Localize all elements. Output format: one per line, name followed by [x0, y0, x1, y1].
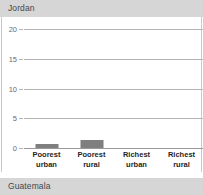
chart-frame: 05101520 PooresturbanPoorestruralRichest…: [1, 17, 202, 178]
x-axis-label: Richesturban: [114, 150, 159, 169]
bar[interactable]: [35, 144, 58, 148]
y-tick-label: 15: [9, 54, 17, 63]
y-tick-label: 20: [9, 25, 17, 34]
axis-baseline: [24, 148, 203, 149]
bar-slot: [69, 29, 114, 148]
x-axis-label: Richestrural: [159, 150, 203, 169]
y-tick-label: 5: [13, 114, 17, 123]
x-axis-label-line: urban: [24, 160, 69, 170]
next-panel-title: Guatemala: [8, 181, 50, 191]
x-axis-label-line: Poorest: [69, 150, 114, 160]
x-axis-label-line: Richest: [114, 150, 159, 160]
y-tick-label: 10: [9, 84, 17, 93]
bar-series: [24, 29, 203, 148]
y-axis: 05101520: [2, 17, 24, 178]
y-tick-mark: [19, 29, 23, 30]
x-axis-label-line: rural: [159, 160, 203, 170]
x-axis-label-line: urban: [114, 160, 159, 170]
bar[interactable]: [80, 140, 103, 148]
y-tick-mark: [19, 118, 23, 119]
bar-slot: [159, 29, 203, 148]
x-axis-label-line: Richest: [159, 150, 203, 160]
panel-header: Jordan: [0, 0, 203, 17]
country-chart-panel: Jordan 05101520 PooresturbanPoorestrural…: [0, 0, 203, 195]
bar-slot: [114, 29, 159, 148]
x-axis-label: Poorestrural: [69, 150, 114, 169]
y-tick-mark: [19, 89, 23, 90]
x-axis-label-line: Poorest: [24, 150, 69, 160]
y-tick-mark: [19, 59, 23, 60]
next-panel-header: Guatemala: [0, 178, 203, 195]
y-tick-mark: [19, 148, 23, 149]
x-axis-label: Pooresturban: [24, 150, 69, 169]
bar-slot: [24, 29, 69, 148]
page-title: Jordan: [8, 3, 35, 13]
y-tick-label: 0: [13, 144, 17, 153]
plot-area: [24, 29, 203, 148]
x-axis-label-line: rural: [69, 160, 114, 170]
